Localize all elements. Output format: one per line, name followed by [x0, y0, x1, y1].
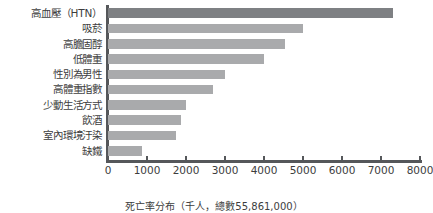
bar-row: [108, 67, 420, 82]
x-tick-mark: [224, 156, 226, 161]
category-label: 缺鐵: [0, 144, 104, 159]
x-tick-mark: [302, 156, 304, 161]
bar: [108, 115, 181, 125]
bar: [108, 39, 285, 49]
x-tick-mark: [146, 156, 148, 161]
x-tick-label: 4000: [251, 164, 278, 176]
x-tick-label: 8000: [407, 164, 433, 176]
category-label: 吸菸: [0, 21, 104, 36]
category-label: 高體重指數: [0, 82, 104, 97]
category-label: 室內環境汙染: [0, 128, 104, 143]
bar-row: [108, 6, 420, 21]
category-label: 飲酒: [0, 113, 104, 128]
bar-row: [108, 98, 420, 113]
bar-row: [108, 113, 420, 128]
bar-row: [108, 128, 420, 143]
x-axis-ticks: 010002000300040005000600070008000: [108, 160, 420, 186]
x-tick-mark: [341, 156, 343, 161]
category-label: 高血壓（HTN）: [0, 6, 104, 21]
category-axis-labels: 高血壓（HTN）吸菸高膽固醇低體重性別為男性高體重指數少動生活方式飲酒室內環境汙…: [0, 6, 104, 159]
x-tick-label: 7000: [368, 164, 395, 176]
x-tick-mark: [107, 156, 109, 161]
x-tick-label: 5000: [290, 164, 317, 176]
bar: [108, 85, 213, 95]
category-label: 少動生活方式: [0, 98, 104, 113]
bar-row: [108, 52, 420, 67]
bar: [108, 54, 264, 64]
x-tick-label: 0: [105, 164, 112, 176]
x-tick-mark: [380, 156, 382, 161]
x-tick-label: 3000: [212, 164, 239, 176]
x-tick-mark: [419, 156, 421, 161]
x-tick-label: 6000: [329, 164, 356, 176]
bar: [108, 24, 303, 34]
category-label: 低體重: [0, 52, 104, 67]
bar: [108, 8, 393, 18]
x-tick-mark: [185, 156, 187, 161]
bar: [108, 146, 142, 156]
bar: [108, 100, 186, 110]
x-tick-mark: [263, 156, 265, 161]
bar-row: [108, 21, 420, 36]
bar-row: [108, 37, 420, 52]
category-label: 高膽固醇: [0, 37, 104, 52]
bar: [108, 70, 225, 80]
bar: [108, 131, 176, 141]
bar-series: [108, 6, 420, 159]
category-label: 性別為男性: [0, 67, 104, 82]
chart-caption: 死亡率分布（千人，總數55,861,000）: [0, 198, 428, 213]
x-tick-label: 2000: [173, 164, 200, 176]
bar-row: [108, 82, 420, 97]
x-tick-label: 1000: [134, 164, 161, 176]
plot-area: [108, 6, 420, 159]
